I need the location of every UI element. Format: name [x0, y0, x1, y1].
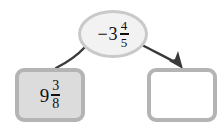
operation-numerator: 4 — [120, 19, 129, 33]
operation-fraction: 4 5 — [120, 19, 129, 50]
output-node[interactable] — [147, 68, 217, 122]
operation-whole: 3 — [109, 25, 118, 43]
input-value: 9 3 8 — [40, 79, 61, 112]
input-numerator: 3 — [51, 79, 60, 94]
operation-denominator: 5 — [120, 36, 129, 50]
input-denominator: 8 — [51, 97, 60, 112]
input-whole: 9 — [40, 86, 50, 105]
input-fraction: 3 8 — [51, 79, 60, 112]
flow-diagram: − 3 4 5 9 3 8 — [0, 0, 223, 131]
input-node: 9 3 8 — [15, 68, 85, 122]
operation-value: − 3 4 5 — [97, 19, 128, 50]
operation-node: − 3 4 5 — [78, 10, 148, 58]
operation-sign: − — [97, 25, 107, 43]
connector-input-to-operation — [56, 47, 85, 68]
